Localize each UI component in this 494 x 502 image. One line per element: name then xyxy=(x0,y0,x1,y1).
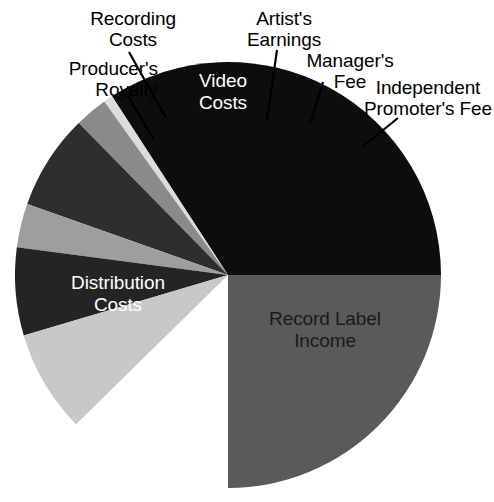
slice-label-independent-promoters-fee: Independent Promoter's Fee xyxy=(362,77,494,120)
slice-label-video-costs: Video Costs xyxy=(160,70,286,115)
slice-label-record-label-income: Record Label Income xyxy=(250,308,400,353)
slice-label-artists-earnings: Artist's Earnings xyxy=(222,8,346,51)
slice-label-distribution-costs: Distribution Costs xyxy=(36,272,200,317)
pie-chart-figure: Producer's Royalty Recording Costs Artis… xyxy=(0,0,494,502)
pie-slice-record-label-income xyxy=(228,275,441,488)
slice-label-recording-costs: Recording Costs xyxy=(58,8,208,51)
slice-label-producers-royalty: Producer's Royalty xyxy=(28,58,158,101)
